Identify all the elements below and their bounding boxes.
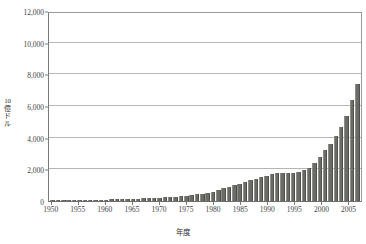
bar: [211, 192, 215, 202]
bar: [147, 198, 151, 201]
bar: [339, 127, 343, 201]
x-axis-tick-label: 1965: [124, 205, 139, 214]
bar: [259, 177, 263, 201]
y-axis-tick-label: 4,000: [0, 134, 44, 143]
bar: [136, 199, 140, 201]
bar: [88, 200, 92, 201]
x-axis-tick-label: 1985: [233, 205, 248, 214]
y-axis-tick-label: 12,000: [0, 8, 44, 17]
bar: [344, 116, 348, 202]
bar: [355, 84, 359, 201]
bar: [152, 198, 156, 201]
bar: [195, 194, 199, 201]
bar: [184, 196, 188, 201]
bar: [83, 200, 87, 201]
bar: [264, 176, 268, 201]
bar: [307, 168, 311, 201]
bar: [109, 199, 113, 201]
x-axis: 1950195519601965197019751980198519901995…: [48, 205, 362, 217]
y-axis-title: 10億ドル: [1, 98, 14, 128]
bar-series: [49, 13, 361, 201]
plot-area: [48, 12, 362, 202]
bar: [232, 185, 236, 201]
bar: [189, 195, 193, 201]
bar: [66, 200, 70, 201]
y-axis-title-char: ル: [1, 121, 14, 129]
bar: [243, 182, 247, 201]
bar: [328, 144, 332, 201]
x-axis-tick-label: 2000: [314, 205, 329, 214]
bar: [61, 200, 65, 201]
bar: [56, 200, 60, 201]
x-axis-tick-label: 1970: [151, 205, 166, 214]
bar: [275, 173, 279, 201]
bar: [312, 163, 316, 201]
bar: [270, 174, 274, 201]
bar: [334, 136, 338, 201]
bar: [216, 190, 220, 201]
bar: [99, 200, 103, 202]
bar: [115, 199, 119, 201]
bar: [179, 196, 183, 201]
x-axis-tick-label: 2005: [341, 205, 356, 214]
x-axis-tick-label: 1990: [260, 205, 275, 214]
bar: [280, 173, 284, 201]
bar: [227, 187, 231, 201]
bar: [120, 199, 124, 201]
bar: [77, 200, 81, 201]
y-axis-tick-label: 0: [0, 198, 44, 207]
bar: [254, 179, 258, 201]
bar: [205, 193, 209, 201]
bar: [237, 184, 241, 201]
bar: [221, 188, 225, 201]
bar: [72, 200, 76, 201]
x-axis-tick-label: 1950: [43, 205, 58, 214]
x-axis-title: 年度: [0, 226, 366, 237]
bar: [163, 197, 167, 201]
bar: [350, 100, 354, 201]
y-axis-tick-label: 2,000: [0, 166, 44, 175]
bar: [141, 198, 145, 201]
bar: [157, 198, 161, 201]
bar: [125, 199, 129, 201]
bar: [296, 172, 300, 201]
y-axis-tick-label: 10,000: [0, 39, 44, 48]
bar: [291, 173, 295, 202]
bar: [323, 150, 327, 201]
bar-chart: 02,0004,0006,0008,00010,00012,000 10億ドル …: [0, 0, 366, 244]
x-axis-tick-label: 1980: [206, 205, 221, 214]
x-axis-tick-label: 1960: [97, 205, 112, 214]
bar: [50, 200, 54, 201]
bar: [173, 197, 177, 201]
bar: [248, 180, 252, 201]
x-axis-tick-label: 1995: [287, 205, 302, 214]
y-axis-tick-label: 8,000: [0, 71, 44, 80]
bar: [131, 199, 135, 201]
bar: [200, 194, 204, 201]
bar: [302, 170, 306, 201]
x-axis-tick-label: 1975: [179, 205, 194, 214]
bar: [104, 200, 108, 202]
bar: [168, 197, 172, 201]
bar: [318, 157, 322, 201]
x-axis-tick-label: 1955: [70, 205, 85, 214]
bar: [93, 200, 97, 201]
bar: [286, 173, 290, 201]
